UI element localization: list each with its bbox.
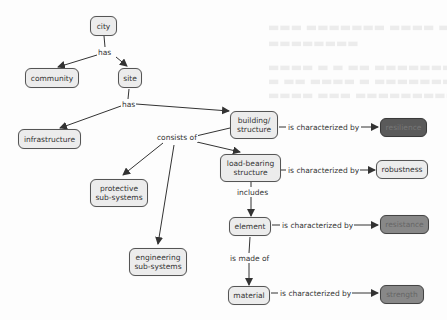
node-infrastructure[interactable]: infrastructure [18,129,81,149]
link-label-building-characterized: is characterized by [287,123,360,132]
node-load-bearing-structure[interactable]: load-bearing structure [220,154,281,182]
link-label-element-characterized: is characterized by [281,221,354,230]
link-label-loadbearing-characterized: is characterized by [287,166,360,175]
node-resistance[interactable]: resistance [380,215,429,234]
node-strength[interactable]: strength [380,285,424,304]
concept-map-canvas: ▬▬▬ ▬▬▬▬▬▬▬ ▬▬▬▬ ▬▬▬▬ ▬▬ ▬▬▬▬▬▬▬▬ ▬▬▬▬ ▬… [0,0,447,320]
link-label-consists-of: consists of [156,133,198,142]
link-label-includes: includes [236,188,269,197]
node-site[interactable]: site [118,68,142,88]
node-community[interactable]: community [25,68,79,88]
link-label-is-made-of: is made of [229,254,270,263]
node-robustness[interactable]: robustness [376,160,428,179]
node-engineering-subsystems[interactable]: engineering sub-systems [129,248,187,276]
node-resilience[interactable]: resilience [380,118,427,137]
node-city[interactable]: city [90,16,117,36]
node-protective-subsystems[interactable]: protective sub-systems [90,179,148,207]
link-label-city-has: has [97,48,112,57]
node-material[interactable]: material [228,286,270,305]
link-label-material-characterized: is characterized by [279,289,352,298]
link-label-site-has: has [121,100,136,109]
node-element[interactable]: element [229,217,271,236]
node-building-structure[interactable]: building/ structure [230,111,278,139]
